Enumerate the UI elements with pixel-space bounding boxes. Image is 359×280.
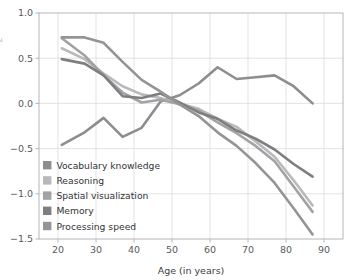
legend-label-processing-speed[interactable]: Processing speed bbox=[56, 221, 136, 232]
legend-swatch-processing-speed[interactable] bbox=[43, 222, 51, 230]
x-tick-label: 40 bbox=[128, 244, 140, 255]
y-axis-ticks: −1.5−1.0−0.50.00.51.0 bbox=[10, 7, 39, 244]
y-tick-label: 1.0 bbox=[18, 7, 33, 18]
x-tick-label: 70 bbox=[242, 244, 254, 255]
x-axis-ticks: 2030405060708090 bbox=[52, 239, 330, 255]
x-tick-label: 60 bbox=[204, 244, 216, 255]
legend-swatch-memory[interactable] bbox=[43, 207, 51, 215]
legend-label-spatial-visualization[interactable]: Spatial visualization bbox=[56, 190, 148, 201]
y-tick-label: 0.0 bbox=[18, 98, 33, 109]
y-tick-label: −1.5 bbox=[10, 233, 33, 244]
legend-label-reasoning[interactable]: Reasoning bbox=[56, 175, 104, 186]
legend-swatch-spatial-visualization[interactable] bbox=[43, 191, 51, 199]
chart-container: −1.5−1.0−0.50.00.51.0 2030405060708090 A… bbox=[0, 0, 359, 280]
legend-swatch-vocabulary-knowledge[interactable] bbox=[43, 161, 51, 169]
x-tick-label: 90 bbox=[318, 244, 330, 255]
legend-swatch-reasoning[interactable] bbox=[43, 176, 51, 184]
y-tick-label: −1.0 bbox=[10, 188, 33, 199]
legend-label-memory[interactable]: Memory bbox=[56, 205, 94, 216]
x-tick-label: 20 bbox=[52, 244, 64, 255]
x-tick-label: 80 bbox=[280, 244, 292, 255]
y-axis-title-cropped: z bbox=[0, 38, 4, 43]
legend-label-vocabulary-knowledge[interactable]: Vocabulary knowledge bbox=[56, 160, 160, 171]
x-axis-title: Age (in years) bbox=[158, 265, 225, 276]
x-tick-label: 50 bbox=[166, 244, 178, 255]
line-chart: −1.5−1.0−0.50.00.51.0 2030405060708090 A… bbox=[0, 0, 359, 280]
x-tick-label: 30 bbox=[90, 244, 102, 255]
y-tick-label: 0.5 bbox=[18, 53, 33, 64]
y-tick-label: −0.5 bbox=[10, 143, 33, 154]
